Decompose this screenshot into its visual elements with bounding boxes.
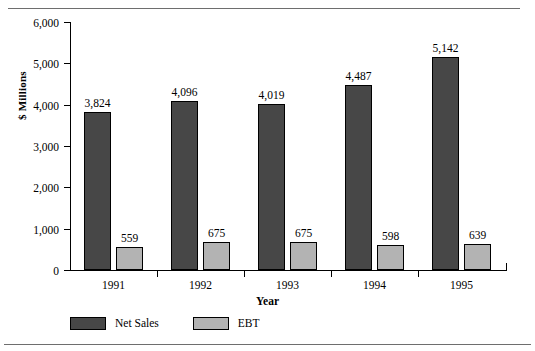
bar-ebt-1992: 675 <box>203 242 230 270</box>
legend-swatch <box>193 317 229 330</box>
x-axis-end-tick <box>506 263 507 271</box>
legend-item-net-sales: Net Sales <box>70 317 159 330</box>
y-tick-label: 5,000 <box>33 56 59 72</box>
y-tick-label: 0 <box>53 263 59 279</box>
chart-figure: $ Millions 01,0002,0003,0004,0005,0006,0… <box>0 0 535 351</box>
bar-value-label: 5,142 <box>433 42 459 55</box>
x-tick-label-1994: 1994 <box>331 278 418 292</box>
bar-value-label: 598 <box>382 230 399 243</box>
legend-swatch <box>70 317 106 330</box>
x-group-separator <box>244 271 245 277</box>
x-axis-line <box>70 270 507 271</box>
legend-label: EBT <box>238 317 260 330</box>
y-tick-label: 3,000 <box>33 139 59 155</box>
y-axis-title: $ Millions <box>16 71 28 120</box>
x-tick-label-1991: 1991 <box>70 278 157 292</box>
bar-ebt-1993: 675 <box>290 242 317 270</box>
bar-value-label: 4,019 <box>259 89 285 102</box>
bar-net-sales-1992: 4,096 <box>171 101 198 270</box>
bar-ebt-1995: 639 <box>464 244 491 270</box>
bar-value-label: 675 <box>208 227 225 240</box>
bar-value-label: 3,824 <box>85 97 111 110</box>
x-tick-label-1995: 1995 <box>418 278 505 292</box>
bottom-rule <box>4 344 531 345</box>
legend-item-ebt: EBT <box>193 317 260 330</box>
y-tick-label: 2,000 <box>33 180 59 196</box>
bar-ebt-1991: 559 <box>116 247 143 270</box>
x-group-separator <box>157 271 158 277</box>
bar-value-label: 559 <box>121 232 138 245</box>
bar-net-sales-1994: 4,487 <box>345 85 372 270</box>
x-tick-label-1992: 1992 <box>157 278 244 292</box>
bar-value-label: 4,096 <box>172 86 198 99</box>
y-tick-label: 1,000 <box>33 222 59 238</box>
y-tick: 0 <box>64 270 70 271</box>
x-group-separator <box>331 271 332 277</box>
y-tick-label: 4,000 <box>33 98 59 114</box>
bar-net-sales-1995: 5,142 <box>432 57 459 270</box>
y-tick-label: 6,000 <box>33 15 59 31</box>
x-group-separator <box>418 271 419 277</box>
x-tick-label-1993: 1993 <box>244 278 331 292</box>
legend-label: Net Sales <box>115 317 159 330</box>
plot-area: 3,8245594,0966754,0196754,4875985,142639 <box>70 22 505 270</box>
x-axis-title: Year <box>0 295 535 307</box>
bar-net-sales-1991: 3,824 <box>84 112 111 270</box>
bar-ebt-1994: 598 <box>377 245 404 270</box>
chart-legend: Net SalesEBT <box>70 317 260 330</box>
bar-net-sales-1993: 4,019 <box>258 104 285 270</box>
bar-value-label: 4,487 <box>346 70 372 83</box>
top-rule <box>8 8 520 9</box>
bar-value-label: 639 <box>469 229 486 242</box>
bar-value-label: 675 <box>295 227 312 240</box>
